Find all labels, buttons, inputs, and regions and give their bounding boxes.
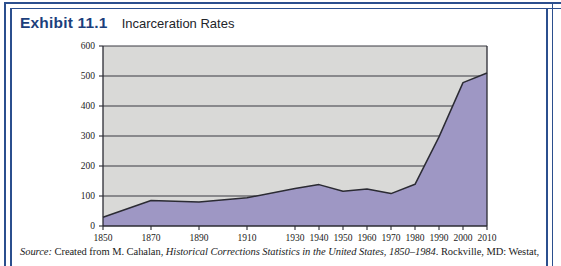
- svg-text:1850: 1850: [94, 233, 113, 243]
- source-work-title: Historical Corrections Statistics in the…: [166, 246, 436, 257]
- svg-text:100: 100: [81, 191, 96, 201]
- svg-text:200: 200: [81, 161, 96, 171]
- svg-text:1950: 1950: [334, 233, 353, 243]
- svg-text:1910: 1910: [238, 233, 257, 243]
- svg-text:300: 300: [81, 131, 96, 141]
- svg-text:2000: 2000: [454, 233, 473, 243]
- source-text-before: Created from M. Cahalan,: [52, 246, 166, 257]
- svg-text:500: 500: [81, 71, 96, 81]
- svg-text:1890: 1890: [190, 233, 209, 243]
- svg-text:1960: 1960: [358, 233, 377, 243]
- chart-area: 0100200300400500600 18501870189019101930…: [0, 0, 561, 245]
- source-text-after: . Rockville, MD: Westat,: [436, 246, 539, 257]
- svg-text:600: 600: [81, 41, 96, 51]
- svg-text:400: 400: [81, 101, 96, 111]
- x-axis-tick-labels: 1850187018901910193019401950196019701980…: [94, 233, 497, 243]
- svg-text:1970: 1970: [382, 233, 401, 243]
- source-label: Source:: [20, 246, 52, 257]
- incarceration-rates-area-chart: 0100200300400500600 18501870189019101930…: [0, 0, 561, 245]
- svg-text:0: 0: [90, 221, 95, 231]
- svg-text:1940: 1940: [310, 233, 329, 243]
- source-citation: Source: Created from M. Cahalan, Histori…: [20, 246, 550, 257]
- svg-text:1870: 1870: [142, 233, 161, 243]
- svg-text:1930: 1930: [286, 233, 305, 243]
- exhibit-figure: Exhibit 11.1 Incarceration Rates 0100200…: [0, 0, 561, 266]
- y-axis-tick-labels: 0100200300400500600: [81, 41, 96, 231]
- svg-text:1990: 1990: [430, 233, 449, 243]
- svg-text:1980: 1980: [406, 233, 425, 243]
- svg-text:2010: 2010: [478, 233, 497, 243]
